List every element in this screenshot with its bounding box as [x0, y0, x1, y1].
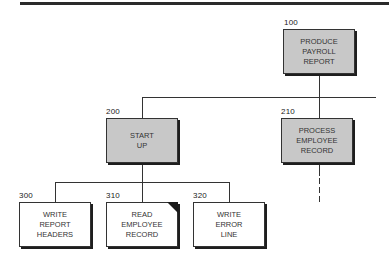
module-line: REPORT — [303, 57, 334, 67]
module-write-report-headers: WRITE REPORT HEADERS — [19, 202, 91, 247]
connector-210-down — [319, 163, 320, 176]
module-write-error-line: WRITE ERROR LINE — [193, 202, 265, 247]
module-line: RECORD — [301, 146, 334, 156]
module-line: PROCESS — [299, 126, 336, 136]
module-line: RECORD — [126, 230, 159, 240]
connector-to-320 — [229, 182, 230, 202]
module-number-320: 320 — [193, 191, 207, 200]
connector-100-down — [319, 75, 320, 97]
connector-to-310 — [142, 182, 143, 202]
module-read-employee-record: READ EMPLOYEE RECORD — [106, 202, 178, 247]
module-line: EMPLOYEE — [296, 136, 337, 146]
module-line: LINE — [221, 230, 238, 240]
module-number-200: 200 — [106, 107, 120, 116]
module-line: START — [130, 131, 154, 141]
module-line: PAYROLL — [302, 47, 336, 57]
connector-to-210 — [319, 97, 320, 118]
module-line: ERROR — [215, 220, 242, 230]
module-number-210: 210 — [281, 107, 295, 116]
module-line: HEADERS — [37, 230, 73, 240]
connector-level1-bus — [142, 97, 376, 98]
connector-to-300 — [55, 182, 56, 202]
module-line: UP — [137, 141, 147, 151]
module-line: REPORT — [39, 220, 70, 230]
module-number-300: 300 — [19, 191, 33, 200]
connector-210-continuation-dashed — [319, 178, 320, 204]
corner-triangle-icon — [167, 202, 178, 213]
module-line: WRITE — [43, 210, 67, 220]
connector-to-200 — [142, 97, 143, 118]
module-line: WRITE — [217, 210, 241, 220]
module-number-100: 100 — [284, 18, 298, 27]
top-rule — [20, 2, 389, 5]
module-line: READ — [132, 210, 153, 220]
module-number-310: 310 — [106, 191, 120, 200]
module-produce-payroll-report: PRODUCE PAYROLL REPORT — [283, 29, 355, 74]
module-start-up: START UP — [106, 118, 178, 163]
connector-200-down — [142, 163, 143, 182]
module-line: EMPLOYEE — [121, 220, 162, 230]
module-process-employee-record: PROCESS EMPLOYEE RECORD — [281, 118, 353, 163]
module-line: PRODUCE — [300, 37, 338, 47]
